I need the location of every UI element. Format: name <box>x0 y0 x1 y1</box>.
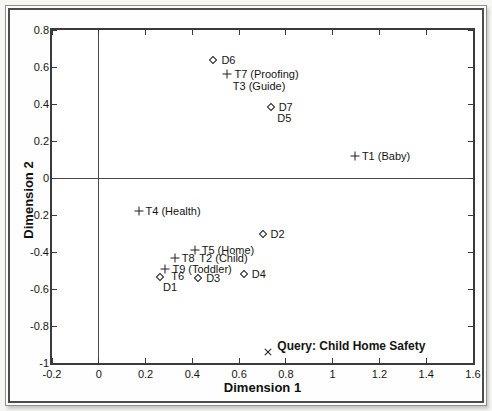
y-tick-right <box>468 67 473 68</box>
y-tick-right <box>468 141 473 142</box>
x-tick-bottom <box>98 358 99 363</box>
x-tick-top <box>332 30 333 35</box>
y-tick-left <box>52 289 57 290</box>
x-tick-bottom <box>192 358 193 363</box>
point-D3-label: D3 <box>206 272 220 283</box>
y-tick-right <box>468 326 473 327</box>
zero-line-vertical <box>98 30 99 363</box>
x-tick-bottom <box>145 358 146 363</box>
point-D2-label: D2 <box>271 229 285 240</box>
x-tick-label: 0.6 <box>217 368 261 380</box>
plot-area: D6T7 (Proofing)D7T1 (Baby)T4 (Health)D2T… <box>52 30 473 363</box>
y-tick-left <box>52 252 57 253</box>
x-tick-top <box>426 30 427 35</box>
y-tick-left <box>52 141 57 142</box>
point-T9-marker <box>161 264 170 273</box>
x-tick-bottom <box>239 358 240 363</box>
y-tick-label: -0.8 <box>1 320 49 332</box>
point-Query-marker <box>265 348 272 355</box>
y-tick-right <box>468 215 473 216</box>
y-tick-left <box>52 215 57 216</box>
y-tick-right <box>468 363 473 364</box>
x-tick-bottom <box>332 358 333 363</box>
annotation-T2: T2 (Child) <box>199 252 247 263</box>
x-axis-title: Dimension 1 <box>52 380 473 395</box>
annotation-D5: D5 <box>277 112 291 123</box>
y-tick-label: 0.6 <box>1 61 49 73</box>
x-tick-label: 0.4 <box>170 368 214 380</box>
x-tick-top <box>239 30 240 35</box>
x-tick-label: 0.8 <box>264 368 308 380</box>
point-T4-marker <box>134 207 143 216</box>
y-tick-right <box>468 30 473 31</box>
x-tick-top <box>285 30 286 35</box>
y-tick-label: -1 <box>1 357 49 369</box>
x-tick-label: 1.2 <box>357 368 401 380</box>
x-tick-top <box>145 30 146 35</box>
point-D7-marker <box>266 103 274 111</box>
point-D2-marker <box>258 230 266 238</box>
y-tick-left <box>52 67 57 68</box>
x-tick-bottom <box>379 358 380 363</box>
point-Query-label: Query: Child Home Safety <box>277 340 425 352</box>
y-tick-left <box>52 30 57 31</box>
y-axis-title: Dimension 2 <box>21 161 36 238</box>
y-tick-left <box>52 326 57 327</box>
point-T1-marker <box>350 151 359 160</box>
zero-line-horizontal <box>52 178 473 179</box>
y-tick-label: -0.4 <box>1 246 49 258</box>
x-tick-top <box>192 30 193 35</box>
y-tick-label: 0.8 <box>1 24 49 36</box>
x-tick-label: 0 <box>77 368 121 380</box>
x-tick-label: -0.2 <box>30 368 74 380</box>
y-tick-left <box>52 104 57 105</box>
x-tick-bottom <box>426 358 427 363</box>
annotation-T3: T3 (Guide) <box>233 80 286 91</box>
x-tick-bottom <box>285 358 286 363</box>
point-T7-marker <box>223 70 232 79</box>
point-T8-marker <box>170 253 179 262</box>
y-tick-label: 0.4 <box>1 98 49 110</box>
point-D4-label: D4 <box>252 269 266 280</box>
y-tick-right <box>468 104 473 105</box>
y-tick-right <box>468 289 473 290</box>
point-T4-label: T4 (Health) <box>146 206 201 217</box>
x-tick-top <box>52 30 53 35</box>
x-tick-label: 0.2 <box>124 368 168 380</box>
x-tick-top <box>473 30 474 35</box>
x-tick-top <box>98 30 99 35</box>
point-D4-marker <box>240 270 248 278</box>
x-tick-label: 1.4 <box>404 368 448 380</box>
point-D6-marker <box>209 55 217 63</box>
y-tick-left <box>52 363 57 364</box>
point-D3-marker <box>194 274 202 282</box>
y-tick-right <box>468 178 473 179</box>
annotation-D1-label: D1 <box>163 282 177 293</box>
x-tick-top <box>379 30 380 35</box>
point-T1-label: T1 (Baby) <box>362 150 410 161</box>
y-tick-label: -0.6 <box>1 283 49 295</box>
point-D6-label: D6 <box>221 54 235 65</box>
x-tick-label: 1 <box>311 368 355 380</box>
y-tick-label: 0.2 <box>1 135 49 147</box>
x-tick-label: 1.6 <box>451 368 492 380</box>
y-tick-right <box>468 252 473 253</box>
y-tick-left <box>52 178 57 179</box>
